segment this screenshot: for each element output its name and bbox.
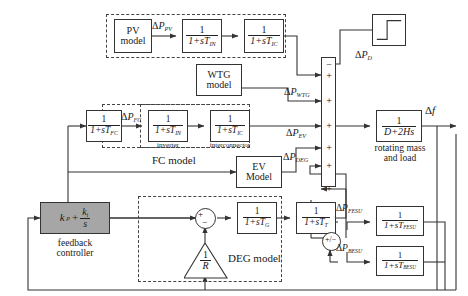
controller-kp: k xyxy=(60,212,65,223)
fc-lag-numerator: 1 xyxy=(88,115,120,125)
deg-governor-block[interactable]: 1 1+sTG xyxy=(237,202,277,234)
fc-inverter-den-prefix: 1+s xyxy=(155,125,170,135)
fc-model-group-label: FC model xyxy=(152,155,196,167)
dpfesu-sub: FESU xyxy=(348,208,362,214)
deg-governor-numerator: 1 xyxy=(243,207,271,217)
fc-interconnector-numerator: 1 xyxy=(215,115,245,125)
fc-lag-block[interactable]: 1 1+sTFC xyxy=(86,110,122,142)
fc-inverter-caption: inverter xyxy=(148,142,188,150)
sum-sign-6: + xyxy=(323,161,335,171)
dpwtg-sub: WTG xyxy=(297,91,310,98)
rotating-mass-block[interactable]: 1 D+2Hs xyxy=(376,110,422,142)
besu-den-sub: BESU xyxy=(403,265,416,271)
rotating-mass-caption: rotating mass and load xyxy=(360,143,440,164)
rotating-mass-caption-line1: rotating mass xyxy=(360,143,440,153)
sum-sign-3: + xyxy=(323,96,335,106)
dpd-sub: D xyxy=(368,54,372,61)
fc-lag-den-sub: FC xyxy=(110,130,118,136)
pv-inverter-den-prefix: 1+s xyxy=(188,35,204,46)
deg-turbine-den-sub: T xyxy=(324,222,327,228)
dpev-sub: EV xyxy=(299,132,307,139)
controller-kp-sub: p xyxy=(67,215,70,222)
deg-turbine-block[interactable]: 1 1+sTT xyxy=(296,202,336,234)
step-input-icon xyxy=(373,15,405,45)
dpbesu-sub: BESU xyxy=(348,248,362,254)
pv-interconnector-block[interactable]: 1 1+sTIC xyxy=(244,19,284,53)
besu-den-prefix: 1+s xyxy=(384,260,398,270)
pv-model-block[interactable]: PV model xyxy=(114,19,152,53)
fc-interconnector-block[interactable]: 1 1+sTIC xyxy=(210,110,250,142)
signal-delta-p-besu: ΔPBESU xyxy=(336,243,362,254)
ev-model-line2: Model xyxy=(246,172,272,182)
fc-interconnector-den-prefix: 1+s xyxy=(217,125,232,135)
controller-ki-sub: i xyxy=(87,211,89,218)
fc-interconnector-caption: interconnector xyxy=(200,142,260,150)
fesu-numerator: 1 xyxy=(382,211,418,220)
fc-inverter-den-sub: IN xyxy=(175,130,181,136)
signal-delta-p-d: ΔPD xyxy=(355,50,372,61)
feedback-controller-block[interactable]: kp + ki s xyxy=(40,202,110,234)
besu-numerator: 1 xyxy=(382,251,418,260)
signal-delta-p-ev: ΔPEV xyxy=(286,128,306,139)
fesu-block[interactable]: 1 1+sTFESU xyxy=(376,206,424,236)
sum-sign-7: + xyxy=(323,184,335,194)
fc-inverter-block[interactable]: 1 1+sTIN xyxy=(148,110,188,142)
rotating-mass-denominator: D+2Hs xyxy=(382,126,416,137)
signal-delta-p-fesu: ΔPFESU xyxy=(336,203,362,214)
sum-sign-4: + xyxy=(323,121,335,131)
signal-delta-p-pv: ΔPPV xyxy=(152,21,172,32)
dpdeg-sub: DEG xyxy=(296,156,309,163)
signal-delta-p-deg: ΔPDEG xyxy=(283,152,308,163)
dpfc-sub: FC xyxy=(134,116,142,123)
ev-model-block[interactable]: EV Model xyxy=(236,156,282,188)
load-disturbance-step-block[interactable] xyxy=(372,14,406,46)
pv-interconnector-den-sub: IC xyxy=(272,40,278,47)
pv-interconnector-numerator: 1 xyxy=(248,25,279,35)
pv-model-line2: model xyxy=(121,36,146,46)
signal-delta-p-wtg: ΔPWTG xyxy=(284,87,310,98)
rotating-mass-numerator: 1 xyxy=(382,116,416,126)
controller-caption-line1: feedback xyxy=(35,238,115,248)
pv-inverter-numerator: 1 xyxy=(186,25,217,35)
sum-sign-5: + xyxy=(323,143,335,153)
block-diagram-figure: PV model 1 1+sTIN 1 1+sTIC WTG model 1 1… xyxy=(0,0,468,296)
sum-sign-1: − xyxy=(323,60,335,70)
signal-delta-p-fc: ΔPFC xyxy=(121,112,141,123)
pv-inverter-den-sub: IN xyxy=(210,40,216,47)
besu-block[interactable]: 1 1+sTBESU xyxy=(376,246,424,276)
fc-interconnector-den-sub: IC xyxy=(237,130,243,136)
sum-sign-2: + xyxy=(323,71,335,81)
deg-junction-minus-sign: − xyxy=(202,217,207,227)
storage-junction-label: +/− xyxy=(325,235,336,244)
dppv-sub: PV xyxy=(165,25,173,32)
droop-denominator: R xyxy=(200,260,210,271)
controller-caption-line2: controller xyxy=(35,248,115,258)
pv-interconnector-den-prefix: 1+s xyxy=(250,35,266,46)
pv-inverter-block[interactable]: 1 1+sTIN xyxy=(182,19,222,53)
controller-ki-den: s xyxy=(80,218,90,229)
deg-governor-den-prefix: 1+s xyxy=(245,217,260,227)
fc-lag-den-prefix: 1+s xyxy=(90,125,105,135)
df-f: f xyxy=(432,104,435,116)
fc-inverter-numerator: 1 xyxy=(153,115,183,125)
deg-model-group-label: DEG model xyxy=(228,253,281,265)
droop-numerator: 1 xyxy=(200,250,210,260)
rotating-mass-caption-line2: and load xyxy=(360,153,440,163)
droop-gain-value: 1 R xyxy=(189,250,222,271)
feedback-controller-caption: feedback controller xyxy=(35,238,115,259)
fesu-den-prefix: 1+s xyxy=(384,220,398,230)
fesu-den-sub: FESU xyxy=(403,225,416,231)
deg-governor-den-sub: G xyxy=(265,222,269,228)
wtg-model-line2: model xyxy=(207,80,232,90)
deg-turbine-numerator: 1 xyxy=(302,207,329,217)
signal-delta-f: Δf xyxy=(425,105,435,117)
wtg-model-block[interactable]: WTG model xyxy=(196,64,242,96)
controller-plus: + xyxy=(72,212,78,223)
deg-turbine-den-prefix: 1+s xyxy=(304,217,319,227)
